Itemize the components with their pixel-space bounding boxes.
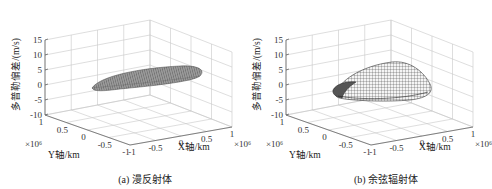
y-tick-label: 0.5 <box>298 125 310 135</box>
y-exponent: ×10⁶ <box>25 139 42 149</box>
surface-cosine <box>333 62 431 101</box>
x-axis-label: X轴/km <box>178 141 210 152</box>
z-tick-label: 15 <box>274 35 284 45</box>
y-tick-label: -0.5 <box>98 140 113 150</box>
z-tick-label: 10 <box>274 50 284 60</box>
x-exponent: ×10⁶ <box>234 139 251 149</box>
y-axis-label: Y轴/km <box>289 149 321 160</box>
panel-a-diffuse: 151050-5-1010.50-0.5-1-1-0.500.51×10⁶×10… <box>10 20 251 186</box>
y-tick-label: -0.5 <box>339 140 354 150</box>
x-tick-label: 1 <box>471 129 476 139</box>
z-tick-label: 10 <box>33 50 43 60</box>
z-tick-label: 5 <box>38 65 43 75</box>
panel-caption: (a) 漫反射体 <box>118 174 172 186</box>
z-axis-label: 多普勒偏差/(m/s) <box>251 38 263 111</box>
z-axis-label: 多普勒偏差/(m/s) <box>10 38 22 111</box>
x-axis-label: X轴/km <box>419 141 451 152</box>
y-tick-label: 0.5 <box>57 125 69 135</box>
x-tick-label: -1 <box>369 147 377 157</box>
x-tick-label: -0.5 <box>389 143 404 153</box>
y-axis-label: Y轴/km <box>48 149 80 160</box>
y-tick-label: 1 <box>280 117 285 127</box>
panel-b-cosine: 151050-5-1010.50-0.5-1-1-0.500.51×10⁶×10… <box>251 20 492 186</box>
z-tick-label: 15 <box>33 35 43 45</box>
x-exponent: ×10⁶ <box>475 139 492 149</box>
x-tick-label: -0.5 <box>148 143 163 153</box>
figure: 151050-5-1010.50-0.5-1-1-0.500.51×10⁶×10… <box>0 0 492 189</box>
z-tick-label: 0 <box>38 80 43 90</box>
y-tick-label: 0 <box>81 132 86 142</box>
z-tick-label: 5 <box>279 65 284 75</box>
surface-diffuse <box>92 66 202 91</box>
y-tick-label: 1 <box>39 117 44 127</box>
z-tick-label: 0 <box>279 80 284 90</box>
x-tick-label: 1 <box>230 129 235 139</box>
y-tick-label: 0 <box>322 132 327 142</box>
panel-caption: (b) 余弦辐射体 <box>354 173 418 186</box>
z-tick-label: -5 <box>276 95 284 105</box>
z-tick-label: -5 <box>35 95 43 105</box>
y-exponent: ×10⁶ <box>266 139 283 149</box>
x-tick-label: -1 <box>128 147 136 157</box>
